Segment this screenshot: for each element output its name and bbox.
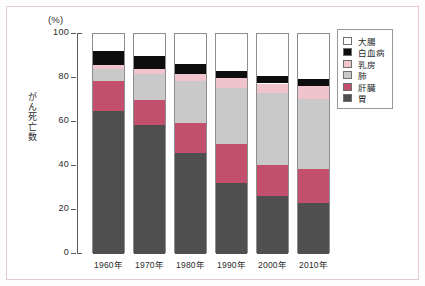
y-tick-mark xyxy=(71,253,76,254)
y-tick-label: 20 xyxy=(31,203,69,215)
y-axis-unit-label: (%) xyxy=(48,14,63,25)
legend-label: 胃 xyxy=(358,92,367,104)
y-tick-label: 60 xyxy=(31,115,69,127)
bar-segment-乳房 xyxy=(216,78,247,88)
bar-segment-乳房 xyxy=(175,74,206,82)
legend-label: 大腸 xyxy=(358,35,376,47)
legend-label: 肺 xyxy=(358,69,367,81)
chart-legend: 大腸白血病乳房肺肝臓胃 xyxy=(337,29,393,109)
legend-item-白血病[interactable]: 白血病 xyxy=(343,47,388,59)
bar-segment-大腸 xyxy=(257,34,288,76)
legend-swatch-icon xyxy=(343,37,352,45)
y-tick-label: 80 xyxy=(31,71,69,83)
bar-segment-乳房 xyxy=(134,69,165,73)
y-tick-label: 0 xyxy=(31,247,69,259)
bar-segment-肝臓 xyxy=(216,144,247,183)
bar-segment-大腸 xyxy=(134,34,165,56)
bar-1960年[interactable] xyxy=(92,33,125,253)
legend-item-肝臓[interactable]: 肝臓 xyxy=(343,81,388,93)
bar-segment-大腸 xyxy=(93,34,124,51)
bar-segment-白血病 xyxy=(175,64,206,74)
bar-segment-肝臓 xyxy=(93,81,124,111)
bar-segment-乳房 xyxy=(93,65,124,69)
legend-swatch-icon xyxy=(343,83,352,91)
y-tick-label-text: 60 xyxy=(35,115,69,125)
bar-segment-胃 xyxy=(134,125,165,254)
bar-segment-胃 xyxy=(93,111,124,254)
y-tick-label-text: 80 xyxy=(35,71,69,81)
y-tick-label-text: 100 xyxy=(35,27,69,37)
y-tick-mark xyxy=(71,209,76,210)
legend-item-乳房[interactable]: 乳房 xyxy=(343,58,388,70)
bar-segment-白血病 xyxy=(257,76,288,84)
legend-label: 肝臓 xyxy=(358,81,376,93)
bar-segment-肺 xyxy=(93,69,124,81)
y-axis-bottom-cap xyxy=(77,253,82,254)
legend-label: 白血病 xyxy=(358,46,386,58)
bar-segment-乳房 xyxy=(257,84,288,94)
legend-swatch-icon xyxy=(343,48,352,56)
bar-2010年[interactable] xyxy=(297,33,330,253)
x-axis-label-2010年: 2010年 xyxy=(288,258,340,270)
y-tick-label-text: 0 xyxy=(35,247,69,257)
bar-segment-肝臓 xyxy=(175,123,206,153)
y-tick-label-text: 20 xyxy=(35,203,69,213)
bar-segment-胃 xyxy=(298,203,329,254)
bar-1970年[interactable] xyxy=(133,33,166,253)
bar-segment-胃 xyxy=(175,153,206,254)
bar-segment-肝臓 xyxy=(134,100,165,125)
bar-segment-白血病 xyxy=(298,79,329,86)
legend-swatch-icon xyxy=(343,60,352,68)
bar-segment-胃 xyxy=(216,183,247,255)
bar-segment-肺 xyxy=(257,93,288,165)
bar-segment-肺 xyxy=(134,74,165,100)
bar-segment-白血病 xyxy=(134,56,165,69)
bar-segment-肺 xyxy=(216,88,247,144)
bar-segment-大腸 xyxy=(298,34,329,79)
bar-segment-肺 xyxy=(175,81,206,123)
legend-item-肺[interactable]: 肺 xyxy=(343,70,388,82)
y-tick-mark xyxy=(71,77,76,78)
plot-area xyxy=(78,33,326,253)
bar-1980年[interactable] xyxy=(174,33,207,253)
bar-segment-肝臓 xyxy=(298,169,329,203)
bar-1990年[interactable] xyxy=(215,33,248,253)
bar-2000年[interactable] xyxy=(256,33,289,253)
y-tick-mark xyxy=(71,165,76,166)
bar-segment-大腸 xyxy=(175,34,206,64)
y-tick-label: 100 xyxy=(31,27,69,39)
legend-label: 乳房 xyxy=(358,58,376,70)
y-tick-label: 40 xyxy=(31,159,69,171)
y-tick-mark xyxy=(71,33,76,34)
bar-segment-肝臓 xyxy=(257,165,288,196)
bar-segment-白血病 xyxy=(216,71,247,78)
y-tick-mark xyxy=(71,121,76,122)
legend-swatch-icon xyxy=(343,94,352,102)
legend-item-胃[interactable]: 胃 xyxy=(343,93,388,105)
bar-segment-白血病 xyxy=(93,51,124,65)
bar-segment-胃 xyxy=(257,196,288,254)
y-tick-label-text: 40 xyxy=(35,159,69,169)
legend-swatch-icon xyxy=(343,71,352,79)
bar-segment-大腸 xyxy=(216,34,247,71)
legend-item-大腸[interactable]: 大腸 xyxy=(343,35,388,47)
bar-segment-乳房 xyxy=(298,86,329,99)
bar-segment-肺 xyxy=(298,99,329,169)
chart-figure: (%) がん死亡数 100806040200 1960年1970年1980年19… xyxy=(0,0,425,286)
